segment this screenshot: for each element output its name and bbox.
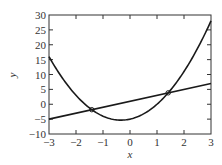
y-tick-label: 0 (41, 98, 47, 110)
y-tick-labels: −10−5051015202530 (29, 9, 47, 140)
linear-line (49, 83, 211, 119)
plot-frame (49, 15, 211, 134)
y-tick-label: 30 (35, 9, 47, 21)
x-tick-label: 2 (181, 136, 187, 148)
y-axis-label: y (6, 72, 18, 78)
x-tick-label: −1 (97, 136, 109, 148)
x-tick-label: 3 (208, 136, 214, 148)
data-series (49, 21, 211, 120)
parabola-curve (49, 21, 211, 120)
y-tick-label: −10 (29, 128, 47, 140)
x-tick-label: 0 (127, 136, 133, 148)
x-tick-label: 1 (154, 136, 160, 148)
y-tick-label: 15 (35, 54, 47, 66)
y-tick-label: −5 (34, 113, 46, 125)
x-tick-label: −2 (70, 136, 82, 148)
y-tick-label: 25 (35, 24, 47, 36)
y-tick-label: 20 (35, 39, 47, 51)
axis-ticks (49, 15, 211, 134)
y-tick-label: 5 (41, 83, 47, 95)
chart: −3−2−10123 −10−5051015202530 x y (0, 0, 222, 165)
x-axis-label: x (127, 148, 133, 160)
y-tick-label: 10 (35, 69, 47, 81)
x-tick-labels: −3−2−10123 (43, 136, 214, 148)
